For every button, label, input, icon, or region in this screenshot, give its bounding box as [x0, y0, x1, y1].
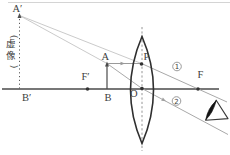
ray-1-direction-arrow — [121, 62, 126, 66]
left-focus-dot — [86, 87, 90, 91]
extension-to-p — [20, 16, 142, 64]
ray-1-badge-number: 1 — [175, 63, 179, 71]
label-virtual-image-char-1: 虚 — [6, 38, 16, 49]
right-focus-dot — [196, 87, 200, 91]
extension-to-a — [20, 16, 108, 64]
ray-1-refracted — [142, 64, 228, 103]
label-object-bottom: B — [105, 92, 112, 103]
label-right-focus: F — [198, 69, 204, 80]
optics-diagram: A′(虚像)B′F′ABOPF12 — [0, 0, 230, 155]
label-virtual-image-char-3: ) — [9, 65, 20, 69]
ray-2-direction-arrow — [161, 98, 167, 103]
label-point-p: P — [144, 51, 150, 62]
label-optical-center: O — [130, 88, 138, 99]
label-image-top: A′ — [13, 3, 23, 14]
point-p-dot — [140, 62, 144, 66]
ray-2-badge-number: 2 — [174, 98, 178, 106]
label-left-focus: F′ — [82, 71, 90, 82]
label-object-top: A — [102, 51, 110, 62]
label-image-bottom: B′ — [22, 92, 31, 103]
lens-ray-diagram-canvas: A′(虚像)B′F′ABOPF12 — [0, 0, 230, 155]
optical-center-dot — [140, 87, 144, 91]
label-virtual-image-char-2: 像 — [6, 50, 16, 61]
ray-2-incident — [107, 64, 142, 89]
